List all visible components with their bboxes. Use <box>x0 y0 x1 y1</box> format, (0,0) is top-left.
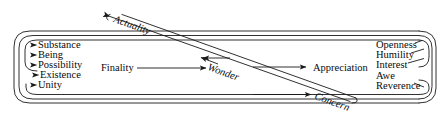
right-item-label-interest: Interest <box>376 60 408 71</box>
right-inner-bracket-lower <box>419 80 429 95</box>
inner-lower-bracket-path <box>26 84 419 95</box>
right-inner-bracket-upper <box>419 40 429 67</box>
diagram-canvas: Substance Being Possibility Existence Un… <box>0 0 444 120</box>
left-item-label-unity: Unity <box>38 80 62 91</box>
right-item-label-reverence: Reverence <box>376 81 420 92</box>
label-finality: Finality <box>101 63 134 74</box>
label-appreciation: Appreciation <box>313 63 368 74</box>
